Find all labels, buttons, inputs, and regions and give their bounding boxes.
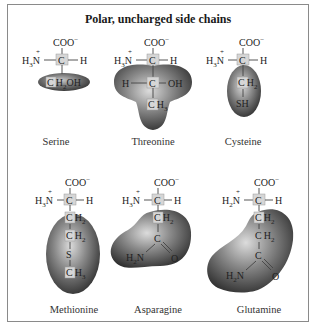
svg-text:H3N: H3N xyxy=(122,195,140,209)
threonine-structure: COO− H3N + C H H C OH CH3 Threonine xyxy=(114,36,192,147)
svg-text:H: H xyxy=(174,195,181,206)
svg-text:+: + xyxy=(36,48,40,56)
svg-text:H2N: H2N xyxy=(222,195,240,209)
svg-text:C: C xyxy=(149,78,156,89)
svg-text:H: H xyxy=(80,55,87,66)
amino-acid-diagram: Polar, uncharged side chains COO− H3N + … xyxy=(0,0,315,329)
carboxylate-label: COO− xyxy=(53,36,78,48)
serine-label: Serine xyxy=(43,136,70,147)
svg-text:+: + xyxy=(128,48,132,56)
svg-text:H: H xyxy=(275,195,282,206)
methionine-label: Methionine xyxy=(50,304,99,315)
svg-text:C: C xyxy=(239,55,246,66)
svg-text:H: H xyxy=(86,195,93,206)
svg-text:+: + xyxy=(136,188,140,196)
svg-text:H: H xyxy=(260,55,267,66)
svg-text:OH: OH xyxy=(168,78,182,89)
svg-text:C: C xyxy=(154,195,161,206)
svg-text:H: H xyxy=(122,78,129,89)
cysteine-side-chain-blob xyxy=(227,65,261,117)
svg-text:O: O xyxy=(171,253,178,264)
svg-text:C: C xyxy=(255,195,262,206)
cysteine-label: Cysteine xyxy=(225,136,262,147)
svg-text:H3N: H3N xyxy=(35,195,53,209)
svg-text:COO−: COO− xyxy=(65,176,90,188)
amino-group-label: H3N xyxy=(22,55,40,69)
svg-text:H3N: H3N xyxy=(206,55,224,69)
svg-text:+: + xyxy=(220,48,224,56)
threonine-label: Threonine xyxy=(131,136,174,147)
svg-text:H: H xyxy=(170,55,177,66)
svg-text:C: C xyxy=(58,55,65,66)
glutamine-side-chain-blob xyxy=(207,209,293,292)
svg-text:SH: SH xyxy=(236,98,249,109)
methionine-side-chain-blob xyxy=(46,214,100,294)
asparagine-label: Asparagine xyxy=(134,304,182,315)
svg-text:C: C xyxy=(149,55,156,66)
asparagine-side-chain-blob xyxy=(111,210,191,268)
svg-text:COO−: COO− xyxy=(144,36,169,48)
svg-text:+: + xyxy=(48,188,52,196)
svg-text:C: C xyxy=(66,195,73,206)
svg-text:COO−: COO− xyxy=(154,176,179,188)
glutamine-label: Glutamine xyxy=(237,304,282,315)
svg-text:C: C xyxy=(154,233,161,244)
cysteine-structure: COO− H3N + C H CH2 SH Cysteine xyxy=(206,36,267,147)
svg-text:COO−: COO− xyxy=(239,36,264,48)
svg-text:O: O xyxy=(272,271,279,282)
methionine-structure: COO− H3N + C H CH2 CH2 S CH3 Methionine xyxy=(35,176,100,315)
svg-text:S: S xyxy=(66,249,72,260)
svg-text:C: C xyxy=(255,250,262,261)
svg-text:+: + xyxy=(236,188,240,196)
glutamine-structure: COO− H2N + C H CH2 CH2 C H2N O Glutamine xyxy=(207,176,293,315)
serine-structure: COO− H3N + C H CH2OH Serine xyxy=(22,36,90,147)
svg-text:COO−: COO− xyxy=(254,176,279,188)
asparagine-structure: COO− H3N + C H CH2 C H2N O Asparagine xyxy=(111,176,191,315)
diagram-title: Polar, uncharged side chains xyxy=(85,12,232,26)
